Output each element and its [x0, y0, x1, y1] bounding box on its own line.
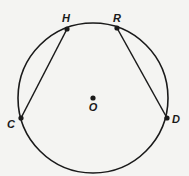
point-h	[64, 26, 69, 31]
label-c: C	[7, 118, 16, 130]
point-d	[164, 115, 169, 120]
point-r	[114, 25, 119, 30]
chord-hc	[21, 29, 67, 118]
label-d: D	[172, 113, 180, 125]
label-r: R	[113, 12, 121, 24]
label-h: H	[62, 12, 71, 24]
point-c	[18, 115, 23, 120]
circle-diagram: H R C D O	[0, 0, 189, 176]
point-o-center	[90, 95, 95, 100]
label-o: O	[89, 101, 98, 113]
diagram-canvas: H R C D O	[0, 0, 189, 176]
